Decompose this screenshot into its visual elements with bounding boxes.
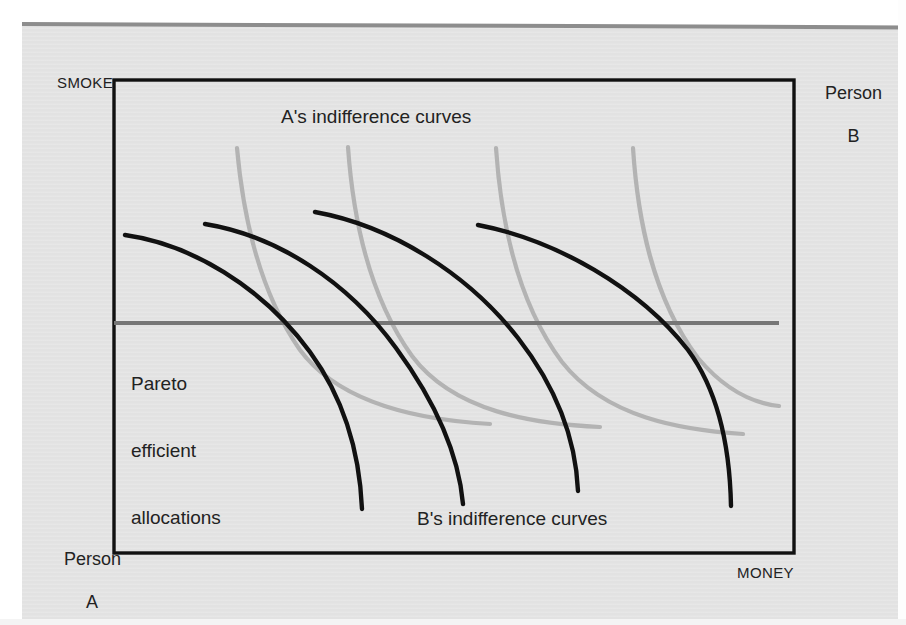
axis-label-smoke: SMOKE <box>57 74 113 92</box>
annotation-pareto-line1: Pareto <box>131 373 221 395</box>
annotation-b-indifference-curves: B's indifference curves <box>417 508 607 530</box>
a-indifference-curve-1 <box>237 148 490 424</box>
b-indifference-curve-2 <box>205 224 463 504</box>
corner-label-person-a-line1: Person <box>64 549 121 569</box>
annotation-pareto-line2: efficient <box>131 440 221 462</box>
corner-label-person-b-line1: Person <box>825 83 882 103</box>
corner-label-person-a-line2: A <box>86 592 98 612</box>
axis-label-money: MONEY <box>737 564 794 582</box>
a-indifference-curve-3 <box>496 148 743 434</box>
figure-page: SMOKE MONEY Person B Person A A's indiff… <box>0 0 906 625</box>
annotation-a-indifference-curves: A's indifference curves <box>281 106 471 128</box>
a-indifference-curve-4 <box>633 148 779 406</box>
corner-label-person-b-line2: B <box>848 126 860 146</box>
corner-label-person-a: Person A <box>44 528 121 625</box>
page-right-margin <box>898 0 906 625</box>
annotation-pareto-line3: allocations <box>131 507 221 529</box>
page-bottom-margin <box>0 619 906 625</box>
annotation-pareto-efficient-allocations: Pareto efficient allocations <box>131 328 221 574</box>
corner-label-person-b: Person B <box>805 62 882 168</box>
a-indifference-curve-2 <box>348 147 600 427</box>
